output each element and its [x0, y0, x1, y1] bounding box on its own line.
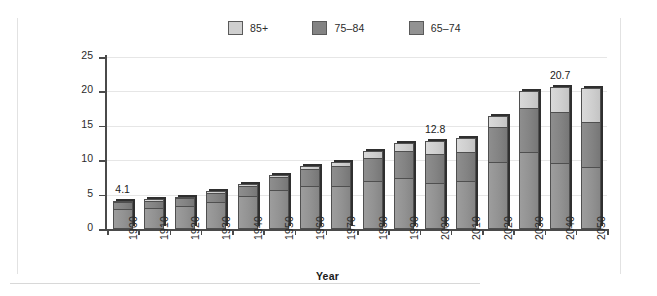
x-tick-label: 2010 [470, 216, 482, 240]
bar-segment-75-84 [364, 159, 382, 182]
legend-item[interactable]: 65–74 [409, 21, 461, 35]
x-tick-mark [107, 229, 109, 235]
x-tick-label: 1990 [408, 216, 420, 240]
bar-segment-85+ [457, 139, 475, 152]
bar-segment-75-84 [457, 153, 475, 182]
y-tick-label: 25 [63, 49, 93, 61]
bar-stack [581, 88, 601, 229]
x-tick-mark [388, 229, 390, 235]
bar-stack [519, 91, 539, 229]
x-axis-title: Year [316, 270, 339, 282]
bar-segment-75-84 [426, 155, 444, 185]
x-tick-mark [607, 229, 609, 235]
y-tick: 15 [0, 126, 105, 127]
y-tick-label: 0 [63, 221, 93, 233]
bar-segment-85+ [364, 152, 382, 159]
x-tick-label: 1970 [345, 216, 357, 240]
x-tick-label: 1930 [220, 216, 232, 240]
legend-item[interactable]: 75–84 [312, 21, 364, 35]
x-tick-mark [170, 229, 172, 235]
bar-value-label: 4.1 [115, 183, 130, 195]
legend-label: 75–84 [334, 22, 364, 34]
x-tick-label: 2020 [502, 216, 514, 240]
bar-segment-85+ [426, 142, 444, 155]
bar-segment-75-84 [239, 187, 257, 197]
x-tick-mark [545, 229, 547, 235]
x-tick-label: 1950 [283, 216, 295, 240]
x-tick-label: 2030 [533, 216, 545, 240]
x-tick-label: 1900 [127, 216, 139, 240]
bar-segment-85+ [395, 144, 413, 152]
x-tick-mark [232, 229, 234, 235]
bar-segment-85+ [489, 117, 507, 128]
y-tick: 25 [0, 57, 105, 58]
x-tick-mark [482, 229, 484, 235]
legend-item[interactable]: 85+ [228, 21, 268, 35]
bar-2030[interactable] [519, 91, 539, 229]
x-tick-label: 1920 [189, 216, 201, 240]
y-tick: 20 [0, 91, 105, 92]
x-tick-mark [201, 229, 203, 235]
x-tick-label: 1980 [377, 216, 389, 240]
bar-segment-75-84 [582, 123, 600, 168]
x-tick-mark [451, 229, 453, 235]
x-tick-label: 2000 [439, 216, 451, 240]
legend-swatch-icon [228, 21, 243, 35]
bar-segment-85+ [520, 92, 538, 109]
bar-2040[interactable]: 20.7 [550, 87, 570, 229]
bar-segment-75-84 [489, 128, 507, 163]
x-tick-label: 1960 [314, 216, 326, 240]
x-tick-label: 2040 [564, 216, 576, 240]
x-tick-mark [295, 229, 297, 235]
chart-legend: 85+75–8465–74 [228, 21, 461, 35]
bar-segment-85+ [551, 88, 569, 114]
bar-segment-75-84 [332, 167, 350, 187]
y-tick-label: 5 [63, 187, 93, 199]
y-tick-label: 20 [63, 83, 93, 95]
x-tick-label: 1910 [158, 216, 170, 240]
bar-2050[interactable] [581, 88, 601, 229]
bar-segment-85+ [582, 89, 600, 123]
bar-stack [550, 87, 570, 229]
page-border-right [620, 18, 621, 274]
bar-2020[interactable] [488, 116, 508, 229]
bar-segment-75-84 [551, 113, 569, 164]
legend-swatch-icon [312, 21, 327, 35]
y-tick: 0 [0, 229, 105, 230]
page-divider-rule [10, 283, 480, 284]
x-tick-mark [420, 229, 422, 235]
x-tick-mark [326, 229, 328, 235]
x-tick-mark [357, 229, 359, 235]
x-tick-mark [138, 229, 140, 235]
chart-page: 85+75–8465–74 Percent of population 0510… [0, 0, 657, 296]
legend-label: 85+ [250, 22, 268, 34]
x-tick-label: 2050 [595, 216, 607, 240]
bar-segment-75-84 [520, 109, 538, 153]
bar-segment-75-84 [145, 202, 163, 209]
plot-area: 4.112.820.7 [107, 57, 607, 229]
legend-label: 65–74 [431, 22, 461, 34]
bar-segment-75-84 [176, 199, 194, 207]
legend-swatch-icon [409, 21, 424, 35]
x-tick-mark [513, 229, 515, 235]
y-tick-label: 15 [63, 118, 93, 130]
y-tick: 10 [0, 160, 105, 161]
bar-segment-75-84 [207, 194, 225, 203]
x-tick-mark [263, 229, 265, 235]
bar-segment-75-84 [395, 152, 413, 179]
y-tick: 5 [0, 195, 105, 196]
bar-segment-75-84 [270, 178, 288, 191]
y-tick-label: 10 [63, 152, 93, 164]
bar-stack [488, 116, 508, 229]
x-tick-mark [576, 229, 578, 235]
x-tick-label: 1940 [252, 216, 264, 240]
bar-value-label: 12.8 [425, 123, 445, 135]
bar-value-label: 20.7 [550, 69, 570, 81]
bar-segment-75-84 [301, 170, 319, 187]
